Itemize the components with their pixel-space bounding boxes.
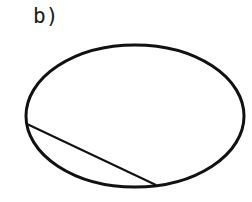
- chord-line: [27, 124, 156, 185]
- ellipse-shape: [26, 45, 244, 187]
- ellipse-diagram: [0, 0, 252, 202]
